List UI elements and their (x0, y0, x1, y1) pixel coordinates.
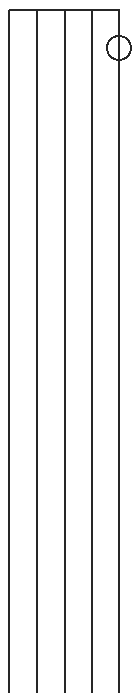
drawing-group (9, 10, 131, 693)
line-drawing-svg (0, 0, 136, 693)
drawing-canvas[interactable] (0, 0, 136, 693)
